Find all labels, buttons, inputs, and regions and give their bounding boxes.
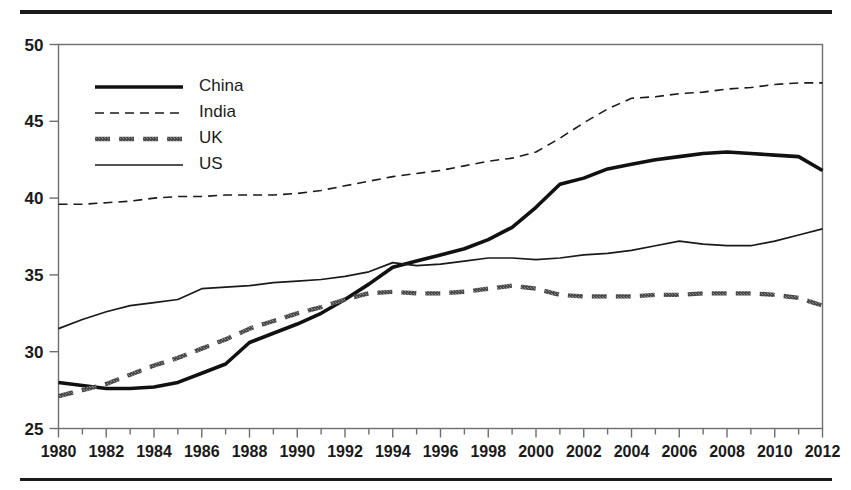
x-tick-label: 2006 bbox=[661, 443, 697, 460]
x-tick-label: 2010 bbox=[757, 443, 793, 460]
x-tick-label: 1988 bbox=[232, 443, 268, 460]
x-tick-label: 1996 bbox=[423, 443, 459, 460]
series-line-india bbox=[59, 83, 823, 204]
x-tick-label: 1994 bbox=[375, 443, 411, 460]
x-tick-label: 1998 bbox=[470, 443, 506, 460]
x-tick-label: 2004 bbox=[614, 443, 650, 460]
chart-svg: 253035404550 198019821984198619881990199… bbox=[0, 0, 851, 490]
series-line-uk bbox=[59, 286, 823, 397]
y-tick-label: 50 bbox=[25, 36, 44, 55]
x-tick-label: 1990 bbox=[279, 443, 315, 460]
y-axis-ticks bbox=[50, 45, 59, 429]
x-tick-label: 1980 bbox=[41, 443, 77, 460]
y-tick-label: 35 bbox=[25, 266, 44, 285]
legend-label-uk: UK bbox=[199, 128, 223, 147]
y-tick-label: 30 bbox=[25, 343, 44, 362]
x-tick-label: 1986 bbox=[184, 443, 220, 460]
series-line-us bbox=[59, 229, 823, 329]
chart-legend: ChinaIndiaUKUS bbox=[95, 76, 244, 173]
y-tick-label: 25 bbox=[25, 420, 44, 439]
figure: 253035404550 198019821984198619881990199… bbox=[0, 0, 851, 490]
x-axis-ticks bbox=[59, 429, 823, 438]
series-line-china bbox=[59, 152, 823, 389]
x-tick-label: 1982 bbox=[88, 443, 124, 460]
line-chart: 253035404550 198019821984198619881990199… bbox=[0, 0, 851, 490]
legend-label-india: India bbox=[199, 102, 236, 121]
legend-label-us: US bbox=[199, 154, 223, 173]
y-axis-labels: 253035404550 bbox=[25, 36, 44, 439]
legend-label-china: China bbox=[199, 76, 244, 95]
x-tick-label: 2012 bbox=[805, 443, 841, 460]
series-lines bbox=[59, 83, 823, 396]
x-tick-label: 2002 bbox=[566, 443, 602, 460]
x-tick-label: 2000 bbox=[518, 443, 554, 460]
plot-frame bbox=[59, 45, 823, 429]
x-tick-label: 2008 bbox=[709, 443, 745, 460]
y-tick-label: 45 bbox=[25, 112, 44, 131]
y-tick-label: 40 bbox=[25, 189, 44, 208]
x-axis-labels: 1980198219841986198819901992199419961998… bbox=[41, 443, 841, 460]
x-tick-label: 1984 bbox=[136, 443, 172, 460]
x-tick-label: 1992 bbox=[327, 443, 363, 460]
